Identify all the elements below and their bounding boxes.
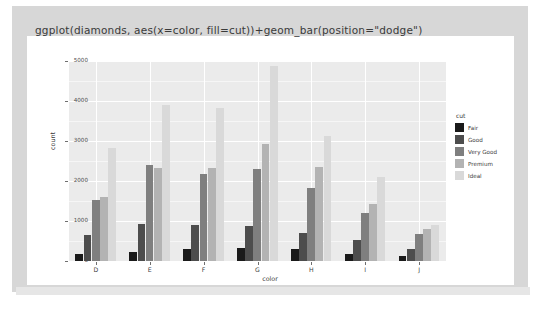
bar [369,204,377,261]
bar [415,234,423,261]
bar [200,174,208,261]
legend: cut FairGoodVery GoodPremiumIdeal [455,112,497,182]
bar [253,169,261,261]
bar [108,148,116,261]
x-axis-tick-label: H [296,266,326,273]
legend-item: Good [455,134,497,145]
x-axis-tick-mark [311,262,312,265]
legend-item-label: Fair [468,125,478,131]
legend-color-swatch [455,171,464,180]
y-axis-tick-label: 1000 [74,217,88,223]
x-axis-tick-mark [419,262,420,265]
bar [208,168,216,261]
y-axis-tick-label: 0 [84,257,88,263]
legend-item-label: Very Good [468,149,497,155]
x-axis-label: color [0,275,540,283]
bar [162,105,170,261]
bar [75,254,83,261]
bar [345,254,353,261]
legend-item-label: Premium [468,161,493,167]
bar [361,213,369,261]
bar [299,233,307,261]
screenshot-root: ggplot(diamonds, aes(x=color, fill=cut))… [0,0,540,312]
bar [353,240,361,261]
y-axis-tick-mark [65,141,68,142]
y-axis-tick-mark [65,181,68,182]
legend-color-swatch [455,159,464,168]
bar-series-layer [69,61,446,261]
bar [154,168,162,261]
legend-item: Premium [455,158,497,169]
x-axis-tick-label: I [350,266,380,273]
bar [307,188,315,261]
y-axis-tick-mark [65,61,68,62]
y-axis-tick-mark [65,261,68,262]
x-axis-tick-label: G [243,266,273,273]
bar [407,249,415,261]
bar [324,136,332,261]
bar [423,229,431,261]
bar [191,225,199,261]
bar [377,177,385,261]
x-axis-tick-label: E [135,266,165,273]
bar [291,249,299,261]
bar [245,226,253,261]
y-axis-tick-label: 4000 [74,97,88,103]
legend-item: Fair [455,122,497,133]
bar [100,197,108,261]
bar [237,248,245,261]
legend-item: Very Good [455,146,497,157]
bar [92,200,100,261]
legend-item-label: Good [468,137,483,143]
x-axis-tick-label: D [81,266,111,273]
y-axis-tick-mark [65,101,68,102]
bar [129,252,137,261]
plot-panel [69,61,446,261]
y-axis-tick-label: 5000 [74,57,88,63]
y-axis-tick-mark [65,221,68,222]
x-axis-tick-mark [96,262,97,265]
bar [262,144,270,261]
bar [270,66,278,261]
bar [146,165,154,261]
legend-title: cut [456,112,497,119]
y-axis-label: count [49,132,57,150]
plot-title: ggplot(diamonds, aes(x=color, fill=cut))… [35,24,422,36]
x-axis-tick-mark [150,262,151,265]
x-axis-tick-mark [204,262,205,265]
legend-color-swatch [455,147,464,156]
x-axis-tick-mark [258,262,259,265]
bar [315,167,323,261]
legend-item-label: Ideal [468,173,482,179]
x-axis-tick-mark [365,262,366,265]
bar [216,108,224,261]
legend-items: FairGoodVery GoodPremiumIdeal [455,122,497,181]
bar [431,225,439,261]
bar [183,249,191,261]
legend-item: Ideal [455,170,497,181]
legend-color-swatch [455,123,464,132]
x-axis-tick-label: J [404,266,434,273]
x-axis-tick-label: F [189,266,219,273]
y-axis-tick-label: 3000 [74,137,88,143]
legend-color-swatch [455,135,464,144]
bar [138,224,146,261]
y-axis-tick-label: 2000 [74,177,88,183]
bar [399,256,407,261]
slide-frame-shadow [16,287,530,295]
